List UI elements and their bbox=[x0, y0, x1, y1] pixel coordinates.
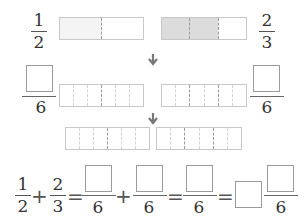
denominator: 6 bbox=[257, 98, 277, 116]
numerator-input-box[interactable] bbox=[267, 165, 294, 192]
strip-sixths-combined-right bbox=[156, 127, 242, 150]
strip-cell bbox=[101, 18, 143, 39]
denominator: 6 bbox=[189, 198, 209, 216]
strip-cell bbox=[157, 128, 170, 149]
denominator: 6 bbox=[88, 198, 108, 216]
strip-cell bbox=[115, 85, 129, 106]
fraction-bar bbox=[183, 195, 217, 196]
strip-cell bbox=[227, 128, 241, 149]
fraction-one-half: 1 2 bbox=[31, 12, 47, 51]
strip-cell-shaded bbox=[60, 18, 101, 39]
whole-number-input-box[interactable] bbox=[235, 181, 262, 208]
equals-sign: = bbox=[167, 186, 184, 206]
fraction-bar bbox=[82, 195, 116, 196]
strip-cell bbox=[73, 85, 87, 106]
strip-sixths-right bbox=[161, 84, 247, 107]
strip-cell bbox=[129, 85, 143, 106]
strip-cell bbox=[162, 85, 175, 106]
strip-cell bbox=[66, 128, 79, 149]
strip-cell bbox=[93, 128, 107, 149]
strip-sixths-left bbox=[59, 84, 144, 107]
equation-term-one-half: 1 2 bbox=[15, 176, 31, 215]
strip-cell bbox=[87, 85, 101, 106]
numerator-input-box[interactable] bbox=[85, 165, 112, 192]
numerator-input-box[interactable] bbox=[26, 65, 53, 92]
strip-cell bbox=[184, 128, 198, 149]
strip-cell bbox=[101, 85, 115, 106]
strip-cell bbox=[218, 85, 232, 106]
denominator: 6 bbox=[31, 98, 51, 116]
strip-cell bbox=[199, 128, 213, 149]
strip-cell bbox=[170, 128, 184, 149]
numerator-input-box[interactable] bbox=[186, 165, 213, 192]
fraction-bar bbox=[264, 195, 298, 196]
denominator: 3 bbox=[50, 198, 66, 215]
numerator: 2 bbox=[259, 12, 275, 29]
numerator: 1 bbox=[15, 176, 31, 193]
numerator-input-box[interactable] bbox=[136, 165, 163, 192]
strip-cell-shaded bbox=[162, 18, 189, 39]
arrow-down-icon bbox=[148, 54, 158, 66]
denominator: 6 bbox=[139, 198, 159, 216]
denominator: 2 bbox=[15, 198, 31, 215]
equation-term-two-thirds: 2 3 bbox=[50, 176, 66, 215]
equals-sign: = bbox=[67, 186, 84, 206]
strip-cell bbox=[213, 128, 227, 149]
strip-cell bbox=[218, 18, 246, 39]
strip-cell bbox=[107, 128, 121, 149]
numerator-input-box[interactable] bbox=[253, 65, 280, 92]
arrow-down-icon bbox=[148, 113, 158, 125]
strip-cell-shaded bbox=[189, 18, 217, 39]
strip-cell bbox=[175, 85, 189, 106]
strip-thirds bbox=[161, 17, 247, 40]
equals-sign: = bbox=[217, 186, 234, 206]
strip-cell bbox=[135, 128, 149, 149]
denominator: 6 bbox=[271, 198, 291, 216]
denominator: 3 bbox=[259, 34, 275, 51]
strip-cell bbox=[121, 128, 135, 149]
plus-sign: + bbox=[115, 186, 132, 206]
strip-cell bbox=[204, 85, 218, 106]
fraction-two-thirds: 2 3 bbox=[259, 12, 275, 51]
strip-cell bbox=[79, 128, 93, 149]
fraction-bar bbox=[133, 195, 167, 196]
denominator: 2 bbox=[31, 34, 47, 51]
strip-cell bbox=[232, 85, 246, 106]
strip-cell bbox=[189, 85, 203, 106]
strip-halves bbox=[59, 17, 144, 40]
plus-sign: + bbox=[31, 186, 48, 206]
numerator: 2 bbox=[50, 176, 66, 193]
numerator: 1 bbox=[31, 12, 47, 29]
strip-sixths-combined-left bbox=[65, 127, 150, 150]
strip-cell bbox=[60, 85, 73, 106]
